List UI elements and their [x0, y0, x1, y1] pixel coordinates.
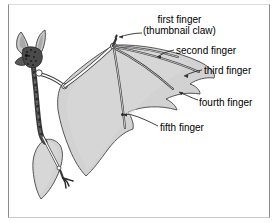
label-first-finger: first finger (thumbnail claw) [143, 14, 216, 36]
foot-claws [63, 178, 73, 188]
label-fourth-finger: fourth finger [199, 97, 252, 108]
knee-joint [57, 166, 61, 170]
fifth-finger-anchor-dot [121, 113, 124, 116]
bat-wing-diagram: first finger (thumbnail claw) second fin… [0, 0, 277, 223]
label-first-finger-line1: first finger [143, 14, 216, 25]
label-fifth-finger: fifth finger [160, 122, 204, 133]
leader-first-finger-arrow [119, 35, 123, 38]
label-third-finger: third finger [204, 65, 251, 76]
label-first-finger-line2: (thumbnail claw) [143, 25, 216, 36]
eye [25, 54, 28, 57]
shoulder-joint [36, 70, 42, 76]
label-second-finger: second finger [176, 45, 236, 56]
bat-illustration [0, 0, 277, 223]
